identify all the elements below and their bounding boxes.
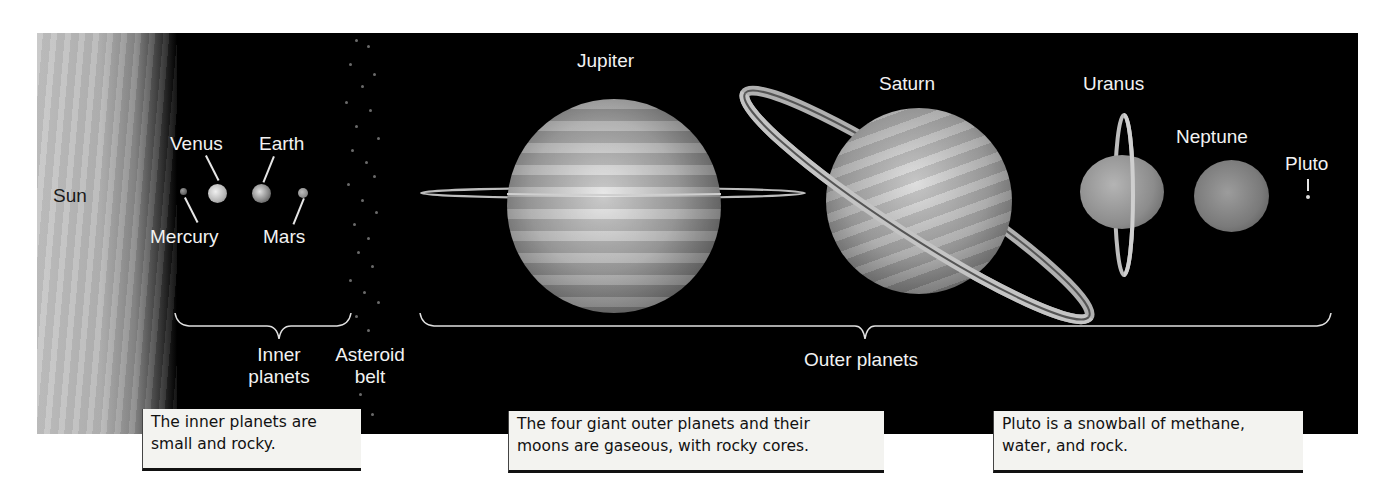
solar-system-panel: Sun Venus Earth Mercury Mars Jupiter <box>37 33 1358 434</box>
label-asteroid-belt: Asteroid belt <box>320 344 420 388</box>
label-outer-planets: Outer planets <box>804 349 918 371</box>
caption-outer-planets: The four giant outer planets and their m… <box>508 411 884 473</box>
caption-pluto: Pluto is a snowball of methane, water, a… <box>993 411 1303 473</box>
label-inner-planets: Inner planets <box>233 344 325 388</box>
caption-inner-planets: The inner planets are small and rocky. <box>142 409 361 471</box>
